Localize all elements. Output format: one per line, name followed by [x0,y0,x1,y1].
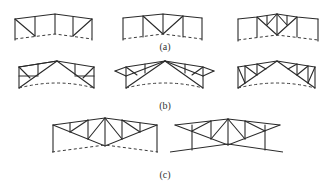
row-label-b: (b) [145,100,185,111]
frame-a1 [15,14,92,40]
row-label-a: (a) [145,41,185,52]
frame-c2 [170,119,283,152]
frame-b3 [238,61,315,88]
frame-b2 [115,61,214,88]
frame-a2 [123,14,202,40]
row-label-c: (c) [145,169,185,180]
frame-c1 [52,118,158,152]
frame-b1 [19,61,94,88]
frame-a3 [238,14,318,41]
truss-diagram-figure: (a) (b) (c) [0,0,332,189]
truss-drawing [0,0,332,189]
